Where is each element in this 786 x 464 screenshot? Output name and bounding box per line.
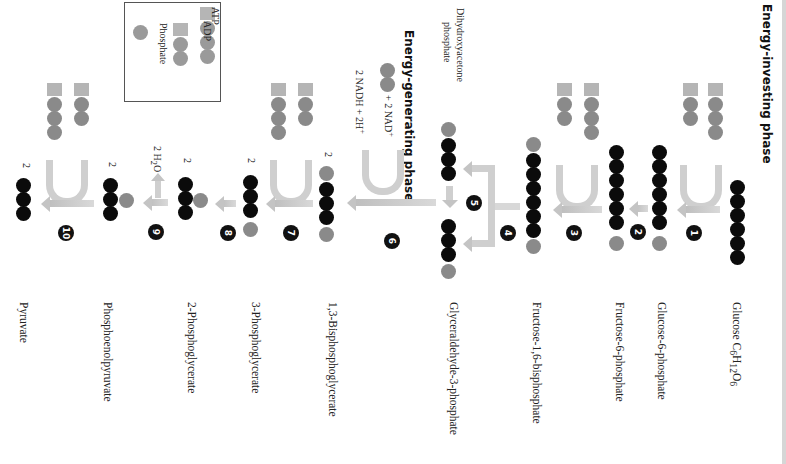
dhap-label-line2: phosphate (442, 22, 453, 63)
label-fructose-1-6-bisphosphate: Fructose-1,6-bisphosphate (531, 302, 543, 424)
phosphate-icon (298, 111, 313, 126)
uturn-arrow-icon (46, 160, 88, 205)
phosphate-icon (526, 137, 541, 152)
multiplier-label: 2 (107, 162, 118, 167)
carbon-icon (441, 166, 456, 181)
phosphate-icon (652, 236, 667, 251)
carbon-icon (526, 167, 541, 182)
reaction-arrow-icon (222, 200, 236, 207)
arrowhead-icon (463, 236, 472, 252)
legend-adp-label: ADP (202, 21, 213, 41)
arrowhead-icon (266, 196, 275, 212)
arrowhead-icon (629, 201, 638, 217)
arrowhead-icon (677, 202, 686, 218)
adenosine-icon (584, 83, 599, 96)
legend-adp-adenosine-icon (173, 23, 188, 36)
legend-atp-phosphate-icon (200, 49, 215, 64)
carbon-icon (526, 195, 541, 210)
uturn-arrow-icon (680, 165, 722, 210)
label-pyruvate: Pyruvate (18, 302, 30, 343)
carbon-icon (652, 145, 667, 160)
carbon-icon (652, 159, 667, 174)
nadh-label: 2 NADH + 2H+ (354, 70, 367, 134)
carbon-icon (178, 177, 193, 192)
carbon-icon (441, 138, 456, 153)
split-bracket-arm-icon (470, 240, 490, 247)
arrowhead-icon (442, 200, 458, 208)
phosphate-icon (298, 97, 313, 112)
legend-adp-phosphate-icon (173, 51, 188, 66)
legend-phosphate-label: Phosphate (158, 23, 169, 64)
arrowhead-icon (41, 196, 50, 212)
uturn-arrow-icon (270, 160, 312, 205)
arrowhead-icon (347, 195, 356, 211)
page-edge (782, 0, 786, 464)
multiplier-label: 2 (21, 163, 32, 168)
phosphate-icon (557, 111, 572, 126)
adenosine-icon (271, 83, 286, 96)
label-fructose-6-phosphate: Fructose-6-phosphate (614, 302, 626, 402)
legend-adp-phosphate-icon (173, 37, 188, 52)
carbon-icon (526, 209, 541, 224)
phosphate-icon (557, 97, 572, 112)
step-number-2: 2 (630, 224, 646, 240)
phosphate-icon (708, 125, 723, 140)
reaction-arrow-icon (150, 199, 168, 206)
phosphate-icon (243, 222, 258, 237)
carbon-icon (243, 203, 258, 218)
multiplier-label: 2 (246, 158, 257, 163)
water-label: 2 H2O (149, 146, 163, 172)
carbon-icon (441, 233, 456, 248)
adenosine-icon (708, 83, 723, 96)
label-phosphoenolpyruvate: Phosphoenolpyruvate (102, 302, 114, 402)
phosphate-icon (609, 236, 624, 251)
carbon-icon (652, 215, 667, 230)
step-number-1: 1 (686, 225, 702, 241)
multiplier-label: 2 (323, 152, 334, 157)
legend-phosphate-icon (133, 25, 148, 40)
carbon-icon (319, 182, 334, 197)
adenosine-icon (298, 83, 313, 96)
carbon-icon (441, 219, 456, 234)
carbon-icon (526, 181, 541, 196)
phosphate-icon (380, 77, 395, 92)
step-number-7: 7 (283, 225, 299, 241)
carbon-icon (16, 192, 31, 207)
label-glyceraldehyde-3-phosphate: Glyceraldehyde-3-phosphate (448, 302, 460, 435)
reaction-arrow-icon (356, 199, 436, 206)
phosphate-icon (319, 166, 334, 181)
phosphate-icon (47, 125, 62, 140)
reaction-arrow-icon (275, 200, 313, 207)
phosphate-icon (584, 97, 599, 112)
legend: ATP ADP Phosphate (124, 2, 221, 102)
reaction-arrow-icon (686, 206, 720, 213)
phosphate-icon (271, 111, 286, 126)
carbon-icon (178, 191, 193, 206)
carbon-icon (609, 187, 624, 202)
carbon-icon (730, 208, 745, 223)
carbon-icon (730, 250, 745, 265)
split-stem-icon (495, 203, 520, 210)
phosphate-icon (271, 125, 286, 140)
phosphate-icon (683, 97, 698, 112)
step-number-3: 3 (566, 225, 582, 241)
phosphate-icon (47, 111, 62, 126)
carbon-icon (103, 192, 118, 207)
phase-title-generating: Energy-generating phase (402, 30, 416, 201)
phosphate-icon (708, 97, 723, 112)
carbon-icon (319, 196, 334, 211)
carbon-icon (730, 180, 745, 195)
phosphate-icon (193, 193, 208, 208)
carbon-icon (652, 187, 667, 202)
phosphate-icon (380, 63, 395, 78)
label-glucose-6-phosphate: Glucose-6-phosphate (656, 302, 668, 400)
carbon-icon (243, 175, 258, 190)
phosphate-icon (271, 97, 286, 112)
carbon-icon (609, 173, 624, 188)
carbon-icon (526, 153, 541, 168)
carbon-icon (16, 206, 31, 221)
step-number-5: 5 (466, 195, 482, 211)
phosphate-icon (441, 122, 456, 137)
label-2-phosphoglycerate: 2-Phosphoglycerate (186, 302, 198, 393)
split-bracket-icon (488, 165, 495, 247)
